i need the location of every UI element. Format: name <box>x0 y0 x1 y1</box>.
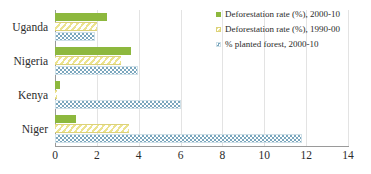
gridline <box>348 10 349 146</box>
legend-swatch-icon <box>216 12 221 17</box>
bar[interactable] <box>55 66 138 75</box>
x-tick-label: 10 <box>259 149 271 162</box>
chart-legend: Deforestation rate (%), 2000-10 Deforest… <box>216 9 340 50</box>
legend-item-planted-forest-2000-10[interactable]: % planted forest, 2000-10 <box>216 39 340 50</box>
bar[interactable] <box>55 81 60 89</box>
legend-item-deforestation-2000-10[interactable]: Deforestation rate (%), 2000-10 <box>216 9 340 20</box>
legend-label: Deforestation rate (%), 1990-00 <box>225 24 340 35</box>
x-axis-line <box>55 146 349 147</box>
bar[interactable] <box>55 13 107 21</box>
legend-item-deforestation-1990-00[interactable]: Deforestation rate (%), 1990-00 <box>216 24 340 35</box>
bar[interactable] <box>55 124 129 133</box>
category-label: Niger <box>22 123 48 135</box>
x-tick-label: 12 <box>300 149 312 162</box>
legend-swatch-icon <box>216 42 221 47</box>
bar[interactable] <box>55 100 181 109</box>
bar-group <box>55 112 348 146</box>
x-tick-label: 6 <box>178 149 184 162</box>
bar[interactable] <box>55 56 121 65</box>
category-label: Kenya <box>18 89 48 101</box>
bar[interactable] <box>55 22 97 31</box>
bar-chart: UgandaNigeriaKenyaNiger 02468101214 Defo… <box>0 0 371 174</box>
bar[interactable] <box>55 115 76 123</box>
category-label: Uganda <box>12 21 48 33</box>
bar[interactable] <box>55 134 302 143</box>
bar[interactable] <box>55 47 131 55</box>
bar[interactable] <box>55 32 95 41</box>
legend-label: % planted forest, 2000-10 <box>225 39 318 50</box>
x-tick-label: 14 <box>342 149 354 162</box>
x-tick-label: 4 <box>136 149 142 162</box>
bar[interactable] <box>55 90 57 99</box>
legend-label: Deforestation rate (%), 2000-10 <box>225 9 340 20</box>
bar-group <box>55 78 348 112</box>
x-tick-label: 2 <box>94 149 100 162</box>
x-tick-label: 8 <box>220 149 226 162</box>
category-label: Nigeria <box>14 55 48 67</box>
x-tick-label: 0 <box>52 149 58 162</box>
legend-swatch-icon <box>216 27 221 32</box>
